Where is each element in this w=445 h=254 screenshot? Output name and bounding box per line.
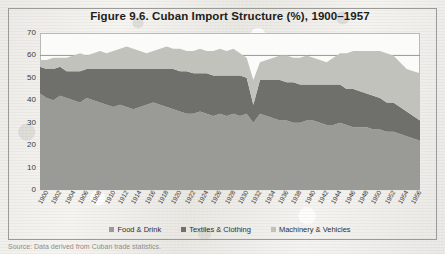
x-axis-tick: 1922 (183, 189, 196, 205)
x-axis-tick: 1954 (396, 189, 409, 205)
x-axis-tick: 1920 (170, 189, 183, 205)
stacked-area-svg (40, 33, 420, 190)
legend-item: Textiles & Clothing (181, 225, 251, 234)
y-axis-tick: 70 (10, 29, 36, 37)
x-axis-tick: 1930 (236, 189, 249, 205)
x-axis-tick: 1934 (263, 189, 276, 205)
y-axis: 010203040506070 (4, 33, 36, 190)
x-axis-tick: 1912 (116, 189, 129, 205)
x-axis-tick: 1902 (50, 189, 63, 205)
legend-label: Textiles & Clothing (189, 225, 251, 234)
x-axis-tick: 1942 (316, 189, 329, 205)
legend-item: Food & Drink (109, 225, 161, 234)
y-axis-tick: 30 (10, 119, 36, 127)
figure-caption: Source: Data derived from Cuban trade st… (8, 243, 437, 252)
x-axis-tick: 1908 (90, 189, 103, 205)
y-axis-tick: 0 (10, 186, 36, 194)
y-axis-tick: 50 (10, 74, 36, 82)
chart-title: Figure 9.6. Cuban Import Structure (%), … (40, 10, 420, 22)
x-axis-tick: 1904 (63, 189, 76, 205)
plot-area (40, 33, 420, 190)
x-axis-tick: 1926 (210, 189, 223, 205)
legend-swatch (181, 227, 186, 232)
x-axis-tick: 1948 (356, 189, 369, 205)
x-axis-tick: 1950 (370, 189, 383, 205)
legend-swatch (109, 227, 114, 232)
x-axis-tick: 1946 (343, 189, 356, 205)
x-axis-tick: 1940 (303, 189, 316, 205)
x-axis: 1900190219041906190819101912191419161918… (40, 191, 420, 225)
x-axis-tick: 1952 (383, 189, 396, 205)
x-axis-tick: 1936 (276, 189, 289, 205)
y-axis-tick: 60 (10, 51, 36, 59)
x-axis-tick: 1910 (103, 189, 116, 205)
chart-legend: Food & DrinkTextiles & ClothingMachinery… (40, 222, 420, 236)
x-axis-tick: 1914 (130, 189, 143, 205)
y-axis-tick: 10 (10, 164, 36, 172)
legend-label: Food & Drink (117, 225, 161, 234)
legend-item: Machinery & Vehicles (271, 225, 351, 234)
y-axis-tick: 20 (10, 141, 36, 149)
y-axis-tick: 40 (10, 96, 36, 104)
x-axis-tick: 1916 (143, 189, 156, 205)
x-axis-tick: 1932 (250, 189, 263, 205)
x-axis-tick: 1918 (156, 189, 169, 205)
legend-swatch (271, 227, 276, 232)
legend-label: Machinery & Vehicles (279, 225, 351, 234)
x-axis-tick: 1906 (76, 189, 89, 205)
x-axis-tick: 1944 (330, 189, 343, 205)
x-axis-tick: 1928 (223, 189, 236, 205)
x-axis-tick: 1924 (196, 189, 209, 205)
x-axis-tick: 1938 (290, 189, 303, 205)
